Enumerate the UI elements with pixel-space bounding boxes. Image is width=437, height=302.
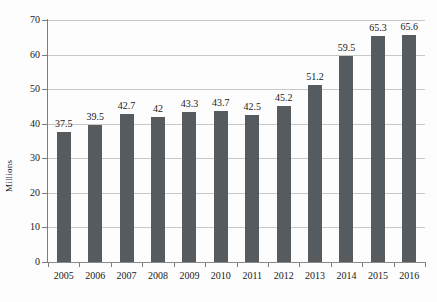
bar-value-label: 45.2 xyxy=(264,93,304,103)
bar-chart: Millions 010203040506070 37.539.542.7424… xyxy=(0,0,437,302)
bar[interactable] xyxy=(308,85,322,262)
y-tick-label: 40 xyxy=(0,119,40,129)
y-tick-mark xyxy=(42,20,47,21)
bar-value-label: 39.5 xyxy=(75,112,115,122)
y-tick-label: 70 xyxy=(0,15,40,25)
y-tick-mark xyxy=(42,262,47,263)
y-tick-mark xyxy=(42,55,47,56)
bar-value-label: 65.6 xyxy=(389,22,429,32)
bar[interactable] xyxy=(120,114,134,262)
x-tick-mark xyxy=(362,263,363,267)
gridline xyxy=(48,55,425,56)
gridline xyxy=(48,20,425,21)
gridline xyxy=(48,158,425,159)
gridline xyxy=(48,89,425,90)
y-tick-label: 60 xyxy=(0,50,40,60)
bar[interactable] xyxy=(371,36,385,262)
x-tick-mark xyxy=(425,263,426,267)
x-tick-mark xyxy=(174,263,175,267)
bar-value-label: 42.5 xyxy=(232,102,272,112)
x-tick-mark xyxy=(142,263,143,267)
y-tick-label: 50 xyxy=(0,84,40,94)
y-tick-label: 30 xyxy=(0,153,40,163)
bar[interactable] xyxy=(339,56,353,262)
x-tick-mark xyxy=(79,263,80,267)
plot-area: 37.539.542.74243.343.742.545.251.259.565… xyxy=(48,20,425,262)
bar[interactable] xyxy=(245,115,259,262)
bar-value-label: 59.5 xyxy=(326,43,366,53)
x-tick-mark xyxy=(331,263,332,267)
bar-value-label: 51.2 xyxy=(295,72,335,82)
x-tick-mark xyxy=(299,263,300,267)
x-tick-label: 2016 xyxy=(388,270,430,281)
x-tick-mark xyxy=(205,263,206,267)
y-tick-mark xyxy=(42,193,47,194)
bar[interactable] xyxy=(182,112,196,262)
x-tick-mark xyxy=(394,263,395,267)
gridline xyxy=(48,124,425,125)
bar[interactable] xyxy=(57,132,71,262)
y-tick-label: 10 xyxy=(0,222,40,232)
x-tick-mark xyxy=(111,263,112,267)
y-tick-label: 0 xyxy=(0,257,40,267)
bar[interactable] xyxy=(88,125,102,262)
y-tick-mark xyxy=(42,227,47,228)
bar[interactable] xyxy=(214,111,228,262)
y-tick-mark xyxy=(42,89,47,90)
gridline xyxy=(48,193,425,194)
x-tick-mark xyxy=(237,263,238,267)
bar[interactable] xyxy=(402,35,416,262)
x-tick-mark xyxy=(268,263,269,267)
bar[interactable] xyxy=(277,106,291,262)
bar[interactable] xyxy=(151,117,165,262)
x-tick-mark xyxy=(48,263,49,267)
y-tick-label: 20 xyxy=(0,188,40,198)
y-tick-mark xyxy=(42,158,47,159)
gridline xyxy=(48,227,425,228)
